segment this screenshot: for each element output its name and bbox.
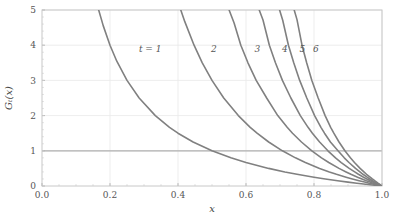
curve-annotation: 5	[299, 44, 305, 54]
x-tick-label: 0.2	[103, 190, 117, 200]
figure-background	[0, 0, 408, 218]
x-axis-title: x	[209, 203, 215, 214]
y-tick-label: 0	[30, 181, 36, 191]
curve-annotation: 6	[313, 44, 319, 54]
y-tick-label: 3	[30, 76, 36, 86]
curve-annotation: 4	[281, 44, 288, 54]
curve-annotation: 3	[255, 44, 261, 54]
y-axis-title: Gₜ(x)	[3, 86, 14, 110]
y-tick-label: 1	[30, 146, 36, 156]
plot-svg: 0.00.20.40.60.81.0 012345 t = 123456 x G…	[0, 0, 408, 218]
y-tick-label: 2	[30, 111, 36, 121]
x-tick-label: 0.0	[35, 190, 50, 200]
curve-annotation: t = 1	[139, 44, 162, 54]
x-tick-label: 0.6	[239, 190, 254, 200]
y-tick-label: 5	[30, 5, 36, 15]
x-tick-label: 0.8	[307, 190, 322, 200]
chart-figure: 0.00.20.40.60.81.0 012345 t = 123456 x G…	[0, 0, 408, 218]
y-tick-label: 4	[30, 40, 36, 50]
curve-annotation: 2	[210, 44, 217, 54]
x-tick-label: 1.0	[375, 190, 390, 200]
x-tick-label: 0.4	[171, 190, 186, 200]
